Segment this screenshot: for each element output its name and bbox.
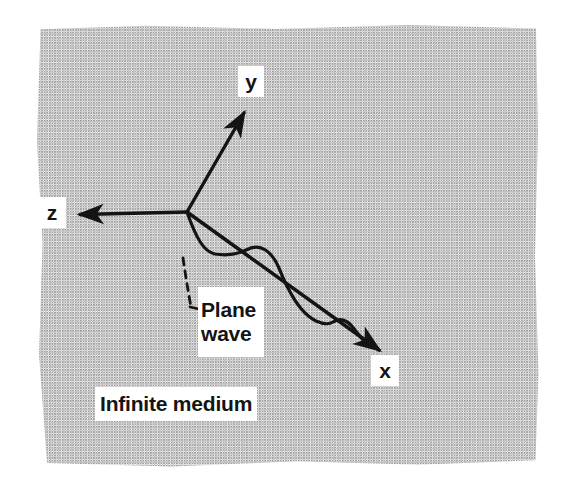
axis-label-y: y [238,66,264,97]
plane-wave-figure: y z x Plane wave Infinite medium [0,0,561,494]
axis-label-x: x [371,355,399,386]
plane-wave-leader-line [183,258,199,309]
axis-z [80,212,187,215]
infinite-medium-label: Infinite medium [95,387,257,421]
axis-label-z: z [38,197,66,228]
plane-wave-label: Plane wave [198,287,264,357]
axes-and-wave-layer [0,0,561,494]
axis-y [187,113,244,212]
